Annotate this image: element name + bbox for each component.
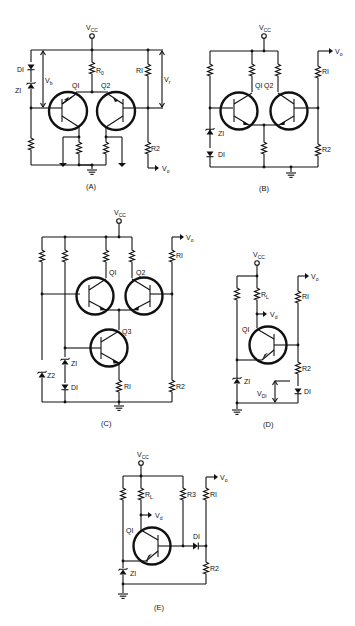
vb-label: Vb	[45, 77, 53, 86]
vo-label: Vo	[220, 474, 228, 483]
r2-label: R2	[176, 383, 185, 390]
q2-transistor-icon	[271, 93, 308, 130]
caption-b: (B)	[259, 184, 270, 193]
r2-label: R2	[302, 365, 311, 372]
q1-label: QI	[72, 82, 79, 90]
panel-c: VCC Z2 ZI DI QI Q2	[38, 209, 194, 428]
q2-transistor-icon	[97, 92, 135, 130]
r2-label: R2	[322, 146, 331, 153]
q1-transistor-icon	[77, 278, 114, 315]
vcc-terminal	[90, 34, 95, 39]
q1-label: QI	[255, 82, 262, 90]
caption-a: (A)	[86, 182, 97, 191]
q1-label: QI	[109, 269, 116, 277]
d1-label: DI	[193, 533, 200, 540]
rl-label: RL	[261, 291, 269, 300]
z2-label: Z2	[47, 372, 55, 379]
vcc-label: VCC	[137, 451, 149, 460]
q2-label: Q2	[136, 269, 145, 277]
q2-label: Q2	[264, 82, 273, 90]
r1-label: RI	[302, 293, 309, 300]
vcc-label: VCC	[253, 251, 265, 260]
panel-b: VCC ZI DI QI Q2	[206, 24, 343, 193]
r1-emitter-label: RI	[124, 383, 131, 390]
q2-transistor-icon	[126, 278, 163, 315]
q2-label: Q2	[101, 82, 110, 90]
vd-label: Vd	[270, 311, 278, 320]
r1-label: RI	[322, 68, 329, 75]
r1-label: RI	[210, 491, 217, 498]
r1-label: RI	[176, 252, 183, 259]
r3-label: R3	[187, 491, 196, 498]
z1-label: ZI	[218, 130, 224, 137]
q1-transistor-icon	[221, 93, 258, 130]
caption-e: (E)	[154, 603, 165, 612]
vo-label: Vo	[162, 165, 170, 174]
d1-diode-icon	[28, 65, 35, 70]
panel-d: VCC ZI RL Vd QI	[232, 251, 319, 429]
d1-label: DI	[304, 388, 311, 395]
r2-label: R2	[151, 145, 160, 152]
z1-label: ZI	[130, 570, 136, 577]
vcc-label: VCC	[114, 209, 126, 218]
caption-d: (D)	[263, 420, 274, 429]
vcc-label: VCC	[86, 24, 98, 33]
vd-label: Vd	[155, 512, 163, 521]
caption-c: (C)	[101, 419, 112, 428]
d1-label: DI	[17, 66, 24, 73]
vo-label: Vo	[311, 273, 319, 282]
d1-label: DI	[71, 384, 78, 391]
vo-label: Vo	[335, 48, 343, 57]
z1-label: ZI	[15, 87, 21, 94]
d1-diode-icon	[193, 543, 198, 550]
rl-label: RL	[145, 491, 153, 500]
circuit-figure: VCC R0 DI ZI Vb	[0, 0, 355, 626]
panel-e: VCC ZI RL Vd QI R3	[118, 451, 228, 612]
z1-label: ZI	[244, 378, 250, 385]
d1-label: DI	[218, 151, 225, 158]
vcc-label: VCC	[259, 24, 271, 33]
vr-label: Vr	[164, 76, 171, 85]
ro-label: R0	[96, 67, 104, 76]
vd1-label: VDI	[257, 390, 267, 399]
z1-zener-icon	[27, 82, 36, 88]
vo-label: Vo	[186, 234, 194, 243]
q1-label: QI	[242, 326, 249, 334]
r2-label: R2	[210, 565, 219, 572]
z1-label: ZI	[71, 360, 77, 367]
panel-a: VCC R0 DI ZI Vb	[15, 24, 171, 191]
r1-label: RI	[136, 67, 143, 74]
q1-label: QI	[126, 527, 133, 535]
